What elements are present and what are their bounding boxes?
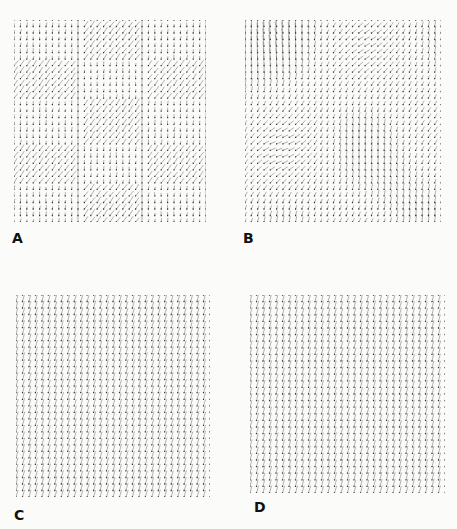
vector-origin-dots: [16, 295, 210, 497]
panel-d-label: D: [254, 499, 266, 515]
vector-lines: [16, 295, 210, 497]
panel-c-label: C: [14, 507, 24, 523]
vector-lines: [14, 20, 206, 222]
panel-d-vector-field: [250, 295, 445, 493]
panel-a-label: A: [12, 230, 23, 246]
panel-c-vector-field: [16, 295, 210, 497]
vector-origin-dots: [14, 20, 206, 222]
panel-b-label: B: [243, 230, 254, 246]
vector-origin-dots: [250, 295, 445, 493]
vector-field-svg: [14, 20, 206, 222]
vector-field-svg: [250, 295, 445, 493]
vector-field-svg: [245, 20, 441, 222]
panel-b-vector-field: [245, 20, 441, 222]
panel-a-vector-field: [14, 20, 206, 222]
vector-lines: [245, 20, 441, 222]
vector-field-svg: [16, 295, 210, 497]
